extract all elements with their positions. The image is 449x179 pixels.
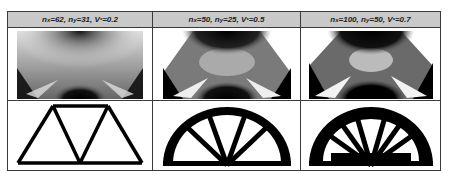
results-table: nx=62, ny=31, V*=0.2 nx=50, ny=25, V*=0.… <box>7 11 441 171</box>
structure-arch-2 <box>153 101 300 171</box>
header-cell-2: nx=50, ny=25, V*=0.5 <box>153 12 300 27</box>
header-cell-3: nx=100, ny=50, V*=0.7 <box>301 12 440 27</box>
header-row: nx=62, ny=31, V*=0.2 nx=50, ny=25, V*=0.… <box>8 12 440 28</box>
density-field-3 <box>301 28 440 100</box>
header-cell-1: nx=62, ny=31, V*=0.2 <box>8 12 152 27</box>
structure-arch-3 <box>301 101 440 171</box>
structure-truss-1 <box>8 101 152 171</box>
density-field-1 <box>8 28 152 100</box>
density-field-2 <box>153 28 300 100</box>
